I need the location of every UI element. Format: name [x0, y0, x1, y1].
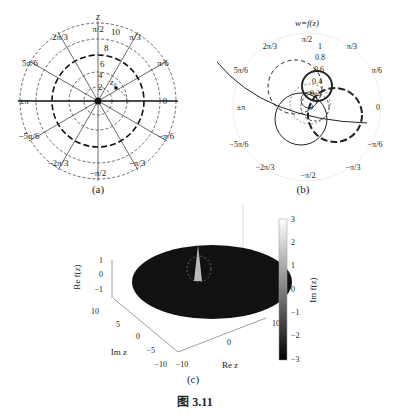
radial-tick: 0.6: [314, 65, 324, 74]
y-tick: 0: [136, 332, 140, 341]
colorbar-tick: −1: [291, 308, 300, 317]
angle-label: π/2: [92, 24, 104, 34]
panel-c: 1 0 −1 Re f(z) 10 5 0 −5 −10 Im z −10 0 …: [0, 205, 395, 416]
angle-label: 0: [376, 103, 380, 112]
radial-tick: 2: [98, 82, 103, 92]
angle-label: −2π/3: [47, 158, 69, 168]
angle-label: π/6: [372, 66, 382, 75]
panel-a: z π/2 π/3 π/6 0 −π/6 −π/3 −π/2 −2π/3: [0, 0, 195, 205]
x-tick: 0: [227, 338, 231, 347]
z-tick: −1: [94, 285, 103, 294]
angle-label: −π/3: [129, 158, 146, 168]
angle-label: 5π/6: [234, 66, 248, 75]
angle-label: 2π/3: [52, 32, 69, 42]
x-tick: −10: [176, 360, 189, 369]
angle-label: π/3: [347, 42, 357, 51]
angle-label: −π/2: [301, 171, 316, 180]
z-tick: 0: [99, 270, 103, 279]
colorbar-tick: −3: [291, 355, 300, 364]
y-tick: 5: [116, 320, 120, 329]
y-axis-label: Im z: [111, 347, 127, 357]
angle-label: −5π/6: [230, 140, 249, 149]
colorbar-tick: −2: [291, 331, 300, 340]
radial-tick: 0: [309, 103, 313, 112]
z-tick: 1: [99, 256, 103, 265]
angle-label: ±π: [19, 96, 29, 106]
angle-label: −π/6: [158, 131, 175, 141]
panel-b: w=f(z) π/2 π/3 π/6 0 −π/6 −π/3 −π/2 −2π/…: [195, 0, 395, 205]
angle-label: 5π/6: [22, 58, 39, 68]
radial-tick: 6: [100, 59, 105, 69]
angle-label: ±π: [237, 103, 245, 112]
polar-grid-a: z π/2 π/3 π/6 0 −π/6 −π/3 −π/2 −2π/3: [0, 0, 195, 205]
caption-a: (a): [78, 183, 118, 195]
y-tick: 10: [91, 307, 99, 316]
radial-tick: 1: [318, 42, 322, 51]
colorbar-tick: 2: [291, 238, 295, 247]
colorbar-label: Im f(z): [308, 277, 318, 302]
radial-tick: 0.4: [312, 77, 322, 86]
radial-tick: 10: [111, 27, 121, 37]
colorbar-tick: 3: [291, 215, 295, 224]
radial-tick: 8: [104, 43, 109, 53]
y-tick: −10: [154, 360, 167, 369]
angle-label: −π/6: [368, 140, 383, 149]
angle-label: −5π/6: [18, 131, 40, 141]
colorbar-tick: 0: [291, 285, 295, 294]
panel-a-title: z: [95, 11, 100, 22]
angle-label: π/2: [302, 35, 312, 44]
z-axis-label: Re f(z): [72, 264, 82, 289]
angle-label: 0: [163, 96, 168, 106]
radial-tick: 0.8: [315, 53, 325, 62]
caption-c: (c): [173, 373, 213, 385]
caption-b: (b): [283, 183, 323, 195]
radial-tick: 4: [98, 70, 103, 80]
radial-tick: 0.2: [310, 89, 320, 98]
y-tick: −5: [146, 346, 155, 355]
angle-label: π/3: [129, 32, 141, 42]
panel-b-title: w=f(z): [295, 18, 319, 28]
colorbar-tick: 1: [291, 261, 295, 270]
colorbar: [279, 219, 287, 360]
polar-image-b: w=f(z) π/2 π/3 π/6 0 −π/6 −π/3 −π/2 −2π/…: [195, 0, 395, 205]
z0-annotation: z₀: [109, 77, 117, 87]
angle-label: π/6: [157, 58, 169, 68]
angle-label: −2π/3: [256, 163, 275, 172]
angle-label: −π/3: [346, 163, 361, 172]
x-axis-label: Re z: [222, 360, 238, 370]
figure-title: 图 3.11: [160, 392, 230, 410]
angle-label: 2π/3: [263, 42, 277, 51]
angle-label: −π/2: [90, 168, 107, 178]
